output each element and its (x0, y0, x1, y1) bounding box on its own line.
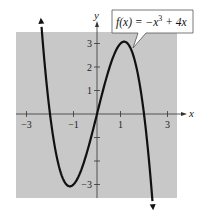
y-tick-label: 3 (87, 38, 92, 49)
curve-start-arrow-icon (38, 18, 44, 24)
x-tick-label: −1 (68, 119, 79, 130)
x-axis-label: x (188, 107, 194, 119)
function-label: f(x) = −x3 + 4x (116, 14, 188, 29)
function-label-rhs: + 4x (162, 16, 187, 28)
x-tick-label: −3 (21, 119, 32, 130)
y-axis-label: y (93, 9, 99, 21)
x-tick-label: 1 (118, 119, 123, 130)
x-axis-arrow-icon (181, 112, 187, 116)
y-axis-arrow-icon (95, 21, 99, 27)
y-tick-label: 2 (87, 62, 92, 73)
y-tick-label: 1 (87, 85, 92, 96)
curve-end-arrow-icon (150, 204, 156, 210)
y-tick-label: −3 (81, 179, 92, 190)
function-label-lhs: f(x) = −x (116, 16, 159, 29)
function-graph: −3−113 321−3 x y f(x) = −x3 + 4x (0, 0, 208, 214)
x-tick-label: 3 (165, 119, 170, 130)
